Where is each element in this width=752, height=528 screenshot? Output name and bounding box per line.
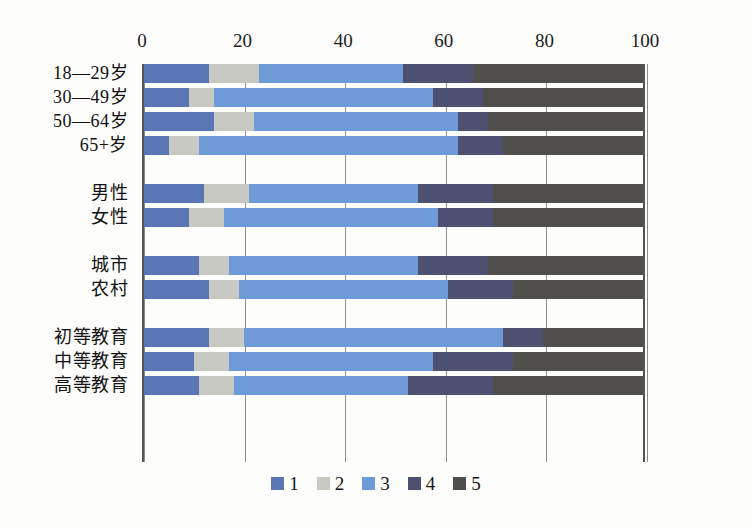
legend: 12345 xyxy=(0,474,752,493)
bar-row xyxy=(144,280,643,299)
bar-row xyxy=(144,376,643,395)
category-label: 65+岁 xyxy=(80,136,128,155)
bar-segment-2 xyxy=(199,256,229,275)
bar-segment-4 xyxy=(408,376,493,395)
bar-segment-4 xyxy=(458,112,488,131)
bar-segment-3 xyxy=(234,376,409,395)
bar-segment-5 xyxy=(493,376,643,395)
x-tick-label-80: 80 xyxy=(535,30,554,52)
bar-segment-5 xyxy=(488,256,643,275)
bar-segment-1 xyxy=(144,64,209,83)
bar-segment-5 xyxy=(543,328,643,347)
legend-label-4: 4 xyxy=(426,474,436,493)
bar-segment-1 xyxy=(144,208,189,227)
bar-segment-2 xyxy=(194,352,229,371)
bar-segment-5 xyxy=(513,280,643,299)
category-label: 高等教育 xyxy=(54,376,128,395)
y-axis-category-labels: 18—29岁30—49岁50—64岁65+岁男性女性城市农村初等教育中等教育高等… xyxy=(0,64,136,462)
x-tick-label-100: 100 xyxy=(631,30,660,52)
bar-segment-5 xyxy=(483,88,643,107)
x-tick-label-20: 20 xyxy=(233,30,252,52)
bar-segment-1 xyxy=(144,88,189,107)
bar-row xyxy=(144,136,643,155)
bar-segment-5 xyxy=(513,352,643,371)
bar-segment-2 xyxy=(169,136,199,155)
bar-row xyxy=(144,64,643,83)
legend-label-2: 2 xyxy=(335,474,345,493)
category-label: 男性 xyxy=(91,184,128,203)
legend-item-3: 3 xyxy=(362,474,390,493)
x-tick-label-40: 40 xyxy=(334,30,353,52)
bar-segment-4 xyxy=(418,184,493,203)
bar-rows xyxy=(144,64,643,462)
legend-swatch-2 xyxy=(317,477,330,490)
bar-segment-1 xyxy=(144,352,194,371)
legend-label-1: 1 xyxy=(289,474,299,493)
bar-row xyxy=(144,256,643,275)
bar-segment-3 xyxy=(214,88,434,107)
bar-row xyxy=(144,88,643,107)
bar-row xyxy=(144,328,643,347)
category-label: 50—64岁 xyxy=(53,112,128,131)
category-label: 农村 xyxy=(91,280,128,299)
bar-segment-2 xyxy=(199,376,234,395)
bar-segment-3 xyxy=(254,112,459,131)
bar-row xyxy=(144,112,643,131)
bar-segment-2 xyxy=(189,208,224,227)
bar-segment-1 xyxy=(144,112,214,131)
legend-label-5: 5 xyxy=(471,474,481,493)
x-tick-label-60: 60 xyxy=(434,30,453,52)
plot-area xyxy=(142,64,645,462)
category-label: 30—49岁 xyxy=(53,88,128,107)
category-label: 中等教育 xyxy=(54,352,128,371)
legend-item-2: 2 xyxy=(317,474,345,493)
bar-row xyxy=(144,208,643,227)
legend-item-5: 5 xyxy=(453,474,481,493)
x-axis-tick-labels: 020406080100 xyxy=(0,30,752,58)
bar-segment-5 xyxy=(473,64,643,83)
bar-segment-4 xyxy=(503,328,543,347)
stacked-bar-chart: 020406080100 18—29岁30—49岁50—64岁65+岁男性女性城… xyxy=(0,0,752,528)
bar-segment-4 xyxy=(438,208,493,227)
bar-segment-3 xyxy=(224,208,439,227)
bar-row xyxy=(144,184,643,203)
category-label: 初等教育 xyxy=(54,328,128,347)
category-label: 18—29岁 xyxy=(53,64,128,83)
legend-label-3: 3 xyxy=(380,474,390,493)
bar-segment-1 xyxy=(144,136,169,155)
bar-segment-3 xyxy=(229,352,434,371)
bar-segment-4 xyxy=(418,256,488,275)
bar-segment-1 xyxy=(144,184,204,203)
bar-segment-1 xyxy=(144,280,209,299)
bar-segment-1 xyxy=(144,328,209,347)
x-tick-label-0: 0 xyxy=(137,30,147,52)
bar-segment-5 xyxy=(493,208,643,227)
bar-segment-2 xyxy=(189,88,214,107)
legend-swatch-1 xyxy=(271,477,284,490)
bar-segment-5 xyxy=(493,184,643,203)
bar-segment-1 xyxy=(144,376,199,395)
legend-swatch-5 xyxy=(453,477,466,490)
bar-segment-2 xyxy=(204,184,249,203)
bar-segment-3 xyxy=(259,64,404,83)
bar-segment-5 xyxy=(488,112,643,131)
bar-segment-3 xyxy=(229,256,419,275)
legend-swatch-3 xyxy=(362,477,375,490)
legend-swatch-4 xyxy=(408,477,421,490)
bar-segment-4 xyxy=(433,88,483,107)
bar-segment-3 xyxy=(239,280,449,299)
bar-segment-4 xyxy=(433,352,513,371)
bar-segment-4 xyxy=(403,64,473,83)
bar-segment-5 xyxy=(503,136,643,155)
bar-segment-2 xyxy=(209,64,259,83)
category-label: 女性 xyxy=(91,208,128,227)
bar-segment-3 xyxy=(249,184,419,203)
bar-segment-1 xyxy=(144,256,199,275)
bar-segment-4 xyxy=(448,280,513,299)
legend-item-1: 1 xyxy=(271,474,299,493)
bar-segment-4 xyxy=(458,136,503,155)
bar-segment-2 xyxy=(209,280,239,299)
bar-segment-2 xyxy=(214,112,254,131)
gridline-100 xyxy=(647,64,648,462)
bar-segment-3 xyxy=(244,328,503,347)
